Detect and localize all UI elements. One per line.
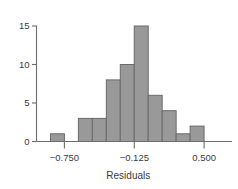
histogram-bar — [134, 26, 148, 142]
histogram-chart: 051015−0.750−0.1250.500Residuals — [0, 0, 238, 189]
histogram-bar — [120, 65, 134, 142]
histogram-bar — [92, 118, 106, 141]
histogram-bar — [162, 111, 176, 142]
histogram-bar — [78, 118, 92, 141]
x-axis-title: Residuals — [106, 170, 150, 181]
y-axis-tick-label: 10 — [19, 59, 30, 70]
histogram-bar — [190, 126, 204, 141]
y-axis-tick-label: 0 — [24, 136, 29, 147]
y-axis-tick-label: 5 — [24, 97, 29, 108]
y-axis-tick-label: 15 — [19, 20, 30, 31]
histogram-bar — [106, 80, 120, 142]
histogram-bar — [176, 134, 190, 142]
x-axis-tick-label: 0.500 — [192, 152, 216, 163]
x-axis-tick-label: −0.750 — [50, 152, 79, 163]
histogram-bar — [148, 95, 162, 141]
x-axis-tick-label: −0.125 — [120, 152, 149, 163]
histogram-bar — [50, 134, 64, 142]
histogram-svg: 051015−0.750−0.1250.500Residuals — [0, 0, 238, 189]
